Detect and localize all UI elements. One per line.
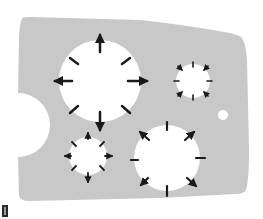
plate <box>18 17 249 201</box>
corner-marker <box>2 205 8 217</box>
small-dot-hole <box>218 110 228 120</box>
small-bottom-left-hole <box>69 137 107 175</box>
plate-diagram <box>0 0 263 219</box>
